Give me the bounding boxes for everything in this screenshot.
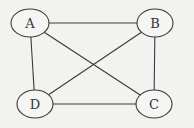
node-label: D bbox=[30, 97, 40, 112]
edges-group bbox=[31, 23, 155, 104]
node-b: B bbox=[137, 9, 173, 37]
node-a: A bbox=[11, 9, 49, 37]
node-label: A bbox=[24, 16, 35, 31]
node-c: C bbox=[136, 90, 172, 118]
edge-b-c bbox=[154, 37, 155, 90]
edge-a-d bbox=[31, 37, 34, 90]
node-label: B bbox=[150, 16, 160, 31]
graph-diagram: ABCD bbox=[0, 0, 194, 128]
edge-a-c bbox=[44, 32, 140, 95]
node-d: D bbox=[17, 90, 53, 118]
edge-b-d bbox=[49, 32, 142, 95]
graph-svg: ABCD bbox=[0, 0, 194, 128]
node-label: C bbox=[149, 97, 159, 112]
